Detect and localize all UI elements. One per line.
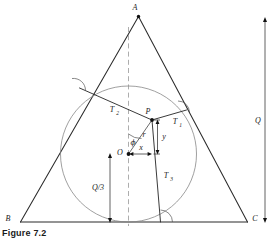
label-t2-base: T xyxy=(110,105,115,114)
dimension-q-over-3 xyxy=(108,153,112,223)
label-inradius-q-over-3: Q/3 xyxy=(92,183,104,192)
label-point-o: O xyxy=(117,148,123,157)
label-t1-subscript: 1 xyxy=(179,122,182,128)
geometry-diagram: A B C O P T 1 T 2 T 3 r ϕ x y Q/3 Q xyxy=(0,0,277,240)
label-coordinate-x: x xyxy=(138,143,143,152)
label-t1: T 1 xyxy=(173,117,182,128)
label-t2: T 2 xyxy=(110,105,119,116)
label-vertex-b: B xyxy=(6,214,11,223)
label-radial-r: r xyxy=(142,130,146,139)
point-dot-p xyxy=(150,118,154,122)
label-angle-phi: ϕ xyxy=(130,138,135,147)
label-vertex-c: C xyxy=(252,214,258,223)
triangle-abc xyxy=(21,17,248,223)
point-dot-a xyxy=(137,15,140,18)
triangle-side-ab xyxy=(21,17,139,223)
label-height-q: Q xyxy=(255,116,261,125)
point-dot-o xyxy=(127,152,131,156)
label-point-p: P xyxy=(145,107,151,116)
dimension-q3-arrow-top xyxy=(108,153,112,158)
right-angle-arc-t3 xyxy=(161,210,173,222)
perpendicular-segment-t1 xyxy=(152,110,187,120)
right-angle-arc-t2 xyxy=(72,78,86,90)
figure-caption: Figure 7.2 xyxy=(2,228,47,238)
dimension-q-arrow-top xyxy=(263,17,267,22)
label-t3-subscript: 3 xyxy=(169,176,173,182)
label-coordinate-y: y xyxy=(161,132,166,141)
dimension-q-arrow-bottom xyxy=(263,218,267,223)
label-vertex-a: A xyxy=(132,3,138,12)
label-t2-subscript: 2 xyxy=(116,110,119,116)
dimension-q-total xyxy=(263,17,267,223)
perpendicular-segment-t3 xyxy=(152,120,161,222)
label-t3-base: T xyxy=(164,171,169,180)
label-t3: T 3 xyxy=(164,171,173,182)
label-t1-base: T xyxy=(173,117,178,126)
dimension-x xyxy=(129,152,152,156)
dimension-x-arrow-right xyxy=(148,152,152,156)
figure-container: A B C O P T 1 T 2 T 3 r ϕ x y Q/3 Q Figu… xyxy=(0,0,277,240)
